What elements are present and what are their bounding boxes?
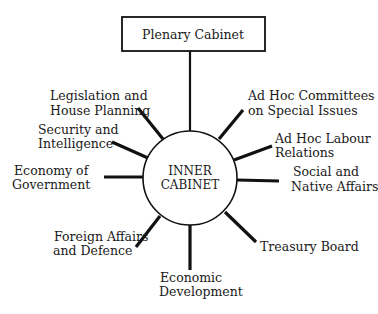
foreign-line2: and Defence (53, 243, 132, 258)
economic-line1: Economic (160, 270, 222, 285)
label-security: Security and Intelligence (38, 122, 119, 151)
label-economic-development: Economic Development (159, 270, 243, 299)
spoke-labour-relations (234, 146, 272, 160)
cabinet-diagram: Plenary Cabinet INNER CABINET Legislatio… (0, 0, 378, 314)
hub-label-line1: INNER (168, 164, 213, 178)
adhoc-line1: Ad Hoc Committees (247, 88, 374, 103)
label-labour-relations: Ad Hoc Labour Relations (274, 131, 371, 160)
economic-line2: Development (159, 284, 243, 299)
hub-label-line2: CABINET (161, 178, 220, 192)
label-legislation: Legislation and House Planning (50, 88, 150, 118)
security-line2: Intelligence (38, 136, 113, 151)
label-social-native: Social and Native Affairs (291, 164, 378, 194)
labour-line1: Ad Hoc Labour (274, 131, 371, 146)
treasury-line1: Treasury Board (260, 239, 359, 254)
labour-line2: Relations (275, 145, 334, 160)
label-economy-government: Economy of Government (12, 163, 90, 192)
plenary-cabinet-label: Plenary Cabinet (142, 27, 244, 42)
label-foreign-affairs: Foreign Affairs and Defence (53, 229, 148, 258)
spoke-adhoc-committees (219, 110, 243, 139)
label-adhoc-committees: Ad Hoc Committees on Special Issues (247, 88, 374, 118)
inner-cabinet-hub: INNER CABINET (143, 131, 237, 225)
economy-line1: Economy of (14, 163, 90, 178)
social-line2: Native Affairs (291, 179, 378, 194)
adhoc-line2: on Special Issues (248, 103, 358, 118)
legislation-line2: House Planning (50, 103, 150, 118)
spoke-security (112, 142, 148, 158)
security-line1: Security and (38, 122, 119, 137)
spoke-treasury-board (225, 212, 256, 242)
label-treasury-board: Treasury Board (260, 239, 359, 254)
foreign-line1: Foreign Affairs (54, 229, 148, 244)
spoke-social-native (237, 180, 279, 181)
plenary-cabinet-node: Plenary Cabinet (122, 17, 265, 51)
legislation-line1: Legislation and (50, 88, 148, 103)
social-line1: Social and (293, 164, 359, 179)
economy-line2: Government (12, 177, 90, 192)
